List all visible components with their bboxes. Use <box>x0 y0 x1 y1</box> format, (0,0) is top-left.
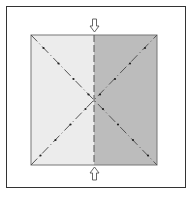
arrow-down-icon <box>90 19 99 32</box>
paper-right-half <box>94 35 157 165</box>
arrow-up-icon <box>90 167 99 180</box>
paper-left-half <box>31 35 94 165</box>
origami-diagram <box>0 0 195 197</box>
